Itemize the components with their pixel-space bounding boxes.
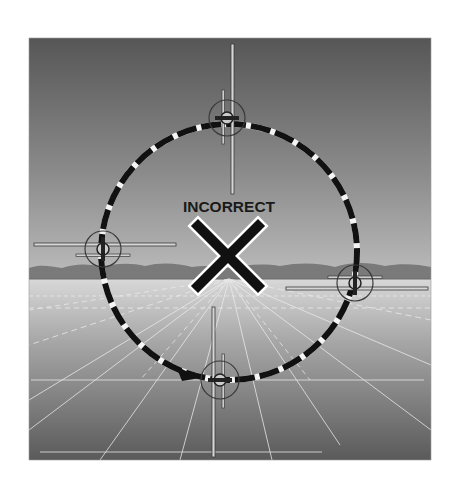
ground: [29, 279, 431, 460]
maneuver-diagram: INCORRECT: [0, 0, 460, 488]
incorrect-label: INCORRECT: [183, 198, 276, 215]
